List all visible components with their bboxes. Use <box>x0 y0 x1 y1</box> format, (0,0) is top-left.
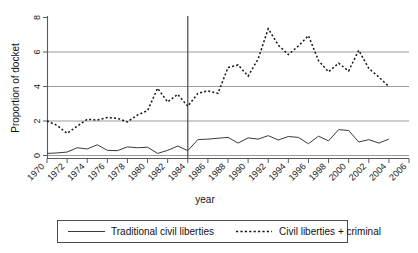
legend: Traditional civil liberties Civil libert… <box>58 221 381 243</box>
data-series <box>47 29 389 154</box>
y-tick-label-8: 8 <box>32 15 42 20</box>
legend-label-civil-liberties-plus-criminal: Civil liberties + criminal <box>279 226 381 237</box>
x-tick-label-1988: 1988 <box>206 161 227 182</box>
x-tick-label-2002: 2002 <box>347 161 368 182</box>
x-tick-label-1996: 1996 <box>287 161 308 182</box>
y-tick-label-6: 6 <box>32 49 42 54</box>
x-tick-label-1986: 1986 <box>186 161 207 182</box>
y-axis-title: Proportion of docket <box>10 43 21 133</box>
x-tick-label-2000: 2000 <box>327 161 348 182</box>
x-tick-label-1972: 1972 <box>45 161 66 182</box>
x-tick-label-1976: 1976 <box>86 161 107 182</box>
x-tick-label-1980: 1980 <box>126 161 147 182</box>
y-tick-label-2: 2 <box>32 118 42 123</box>
x-tick-marks <box>47 159 409 164</box>
chart-figure: 0 2 4 6 8 Proportion of docket 197019721… <box>0 0 418 253</box>
x-tick-label-1974: 1974 <box>65 161 86 182</box>
x-tick-label-1978: 1978 <box>106 161 127 182</box>
gridlines <box>47 52 409 156</box>
x-tick-label-1984: 1984 <box>166 161 187 182</box>
x-tick-label-1998: 1998 <box>307 161 328 182</box>
chart-svg: 0 2 4 6 8 Proportion of docket 197019721… <box>0 0 418 253</box>
x-tick-label-1992: 1992 <box>246 161 267 182</box>
x-tick-label-2006: 2006 <box>387 161 408 182</box>
series-civil-liberties-plus-criminal <box>47 29 389 134</box>
legend-label-traditional-civil-liberties: Traditional civil liberties <box>111 226 214 237</box>
x-tick-label-1982: 1982 <box>146 161 167 182</box>
x-tick-label-2004: 2004 <box>367 161 388 182</box>
y-axis: 0 2 4 6 8 Proportion of docket <box>10 15 48 158</box>
y-tick-label-0: 0 <box>32 153 42 158</box>
x-tick-label-1994: 1994 <box>267 161 288 182</box>
series-traditional-civil-liberties <box>47 130 389 154</box>
x-axis: 1970197219741976197819801982198419861988… <box>25 159 409 206</box>
x-axis-title: year <box>195 194 215 205</box>
x-tick-label-1990: 1990 <box>226 161 247 182</box>
y-tick-label-4: 4 <box>32 84 42 89</box>
x-tick-label-1970: 1970 <box>25 161 46 182</box>
x-tick-labels: 1970197219741976197819801982198419861988… <box>25 161 408 182</box>
